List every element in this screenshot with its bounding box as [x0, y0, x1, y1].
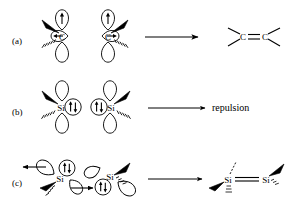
- product-wedge-bond-c-right: [269, 164, 284, 176]
- atom-label-b-right: Si: [107, 103, 115, 113]
- orbital-interaction-figure: (a): [0, 0, 288, 218]
- row-a: (a): [12, 10, 280, 62]
- hash-bond-b-left: [42, 111, 56, 119]
- product-hash-bond-c-right: [271, 179, 279, 184]
- product-atom-left-c: Si: [224, 175, 232, 185]
- orbital-lobe-top-b-left: [55, 81, 68, 101]
- wedge-bond-c-right: [114, 163, 130, 175]
- orbital-lobe-bottom-a-left: [55, 42, 68, 62]
- orbital-lobe-bottom-b-right: [103, 113, 116, 133]
- hash-bond-b-right: [117, 111, 131, 119]
- fragment-right-b: Si: [91, 81, 131, 133]
- product-double-bond-c: [235, 178, 259, 182]
- product-c: Si Si: [209, 162, 284, 192]
- fragment-left-b: Si: [42, 81, 82, 133]
- lone-pair-orbital-b-right: [91, 99, 107, 115]
- fragment-left-c: Si: [34, 157, 85, 196]
- product-text-b: repulsion: [212, 102, 249, 113]
- orbital-lobe-bottom-a-right: [101, 42, 114, 62]
- atom-label-a-right: C: [105, 32, 111, 42]
- empty-orbital-c-left: [66, 176, 85, 196]
- product-atom-right-a: C: [262, 32, 268, 42]
- row-label-a: (a): [12, 36, 22, 46]
- fragment-right-c: Si: [82, 163, 138, 199]
- orbital-lobe-top-a-right: [101, 10, 114, 30]
- wedge-bond-b-right: [114, 91, 130, 104]
- orbital-lobe-top-a-left: [55, 10, 68, 30]
- atom-label-c-right: Si: [106, 172, 114, 182]
- empty-orbital-c-right: [82, 163, 102, 180]
- row-label-b: (b): [12, 107, 23, 117]
- orbital-lobe-outer-c-left: [34, 157, 58, 179]
- product-double-bond-a: [248, 35, 260, 40]
- atom-label-b-left: Si: [57, 103, 65, 113]
- product-hash-bond-c-left: [226, 186, 233, 192]
- orbital-lobe-outer-c-right: [114, 177, 138, 199]
- product-a: C C: [228, 28, 280, 46]
- product-dashed-bond-c-left: [230, 162, 236, 174]
- figure-canvas: (a): [0, 0, 288, 218]
- lone-pair-orbital-b-left: [65, 99, 81, 115]
- fragment-left-a: C: [42, 10, 69, 62]
- row-label-c: (c): [12, 178, 22, 188]
- row-c: (c): [12, 157, 284, 199]
- product-substituents-a: [228, 28, 280, 46]
- product-wedge-bond-c-left: [209, 182, 224, 191]
- product-atom-left-a: C: [240, 32, 246, 42]
- wedge-bond-b-left: [42, 91, 58, 104]
- row-b: (b) Si: [12, 81, 249, 133]
- fragment-right-a: C: [101, 10, 128, 62]
- atom-label-c-left: Si: [56, 174, 64, 184]
- orbital-lobe-top-b-right: [103, 81, 116, 101]
- orbital-lobe-bottom-b-left: [55, 113, 68, 133]
- atom-label-a-left: C: [59, 32, 65, 42]
- product-atom-right-c: Si: [262, 175, 270, 185]
